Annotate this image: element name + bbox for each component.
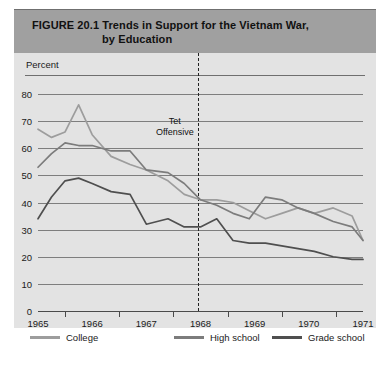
chart-panel: Percent 80706050403020100 19651966196719… (14, 53, 376, 328)
figure-number: FIGURE 20.1 (32, 19, 99, 31)
y-axis-title: Percent (26, 59, 59, 70)
figure-title-band: FIGURE 20.1 Trends in Support for the Vi… (14, 9, 376, 53)
x-axis-tick (282, 311, 283, 317)
x-axis-tick (65, 311, 66, 317)
figure-title-line2: by Education (32, 32, 362, 46)
legend-swatch (30, 336, 60, 339)
series-line-high-school (38, 143, 363, 241)
legend-swatch (272, 336, 302, 339)
y-axis-tick-label: 10 (21, 278, 32, 289)
percent-divider-rule (25, 75, 365, 76)
series-lines (38, 94, 363, 311)
legend-swatch (174, 336, 204, 339)
series-line-college (38, 105, 363, 241)
x-axis-tick-label: 1965 (27, 318, 48, 329)
y-axis-tick-label: 80 (21, 89, 32, 100)
legend-item-grade-school: Grade school (272, 332, 365, 343)
series-line-grade-school (38, 178, 363, 259)
legend-item-college: College (30, 332, 98, 343)
y-axis-tick-label: 60 (21, 143, 32, 154)
page-title: FIGURE 20.1 Trends in Support for the Vi… (32, 18, 362, 46)
x-axis-tick-label: 1971 (352, 318, 373, 329)
legend-label: College (66, 332, 98, 343)
figure-title-line1: Trends in Support for the Vietnam War, (102, 19, 309, 31)
legend-label: Grade school (308, 332, 365, 343)
x-axis-tick (336, 311, 337, 317)
chart-legend: CollegeHigh schoolGrade school (14, 332, 376, 354)
figure-container: FIGURE 20.1 Trends in Support for the Vi… (0, 0, 390, 367)
y-axis-tick-label: 40 (21, 197, 32, 208)
x-axis-tick-label: 1970 (298, 318, 319, 329)
y-axis-tick-label: 20 (21, 251, 32, 262)
x-axis-tick-label: 1966 (82, 318, 103, 329)
x-axis-tick-label: 1969 (244, 318, 265, 329)
x-axis-tick (173, 311, 174, 317)
x-axis-tick-label: 1967 (136, 318, 157, 329)
legend-label: High school (210, 332, 260, 343)
x-axis-tick (119, 311, 120, 317)
x-axis-tick (228, 311, 229, 317)
y-axis-tick-label: 30 (21, 224, 32, 235)
plot-area: 80706050403020100 1965196619671968196919… (38, 94, 363, 311)
legend-item-high-school: High school (174, 332, 260, 343)
y-axis-tick-label: 50 (21, 170, 32, 181)
y-axis-tick-label: 70 (21, 116, 32, 127)
y-axis-tick-label: 0 (27, 306, 32, 317)
x-axis-tick-label: 1968 (190, 318, 211, 329)
x-axis-line (38, 311, 363, 312)
